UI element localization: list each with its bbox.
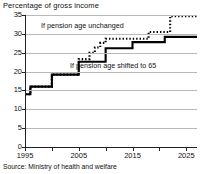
x-axis-tick-label: 1995 [17,152,34,160]
gridline [25,109,197,110]
x-axis-tick-label: 2015 [124,152,141,160]
gridline [25,128,197,129]
y-axis-tick-label: 15 [14,86,22,94]
y-axis-tick-label: 30 [14,30,22,38]
gridline [25,53,197,54]
source-note: Source: Ministry of health and welfare [3,163,117,170]
x-axis-tick-mark [52,148,53,151]
y-axis-tick-label: 20 [14,68,22,76]
gridline [25,90,197,91]
gridline [25,15,197,16]
x-axis-tick-label: 2005 [70,152,87,160]
annotation-pension-age-unchanged: If pension age unchanged [41,22,124,30]
x-axis-tick-mark [159,148,160,151]
y-axis-tick-label: 10 [14,105,22,113]
gridline [25,34,197,35]
x-axis-labels: 1995200520152025 [25,148,197,162]
x-axis-tick-mark [106,148,107,151]
gridline [25,72,197,73]
y-axis-tick-label: 35 [14,11,22,19]
plot-area: 05101520253035 [25,15,197,147]
annotation-pension-age-shifted: If pension age shifted to 65 [70,62,156,70]
chart-axis-title: Percentage of gross income [3,1,99,10]
y-axis-tick-label: 25 [14,49,22,57]
chart-container: Percentage of gross income 0510152025303… [0,0,202,174]
y-axis [25,15,26,148]
x-axis-tick-label: 2025 [178,152,195,160]
